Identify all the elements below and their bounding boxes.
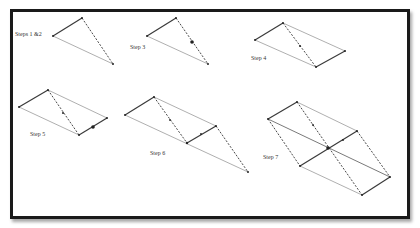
step-4-label: Step 4 xyxy=(251,55,266,61)
step-1-2-label: Steps 1 &2 xyxy=(15,31,42,37)
step-7-label: Step 7 xyxy=(263,154,278,160)
step-1-2-figure xyxy=(52,17,114,65)
construction-steps-diagram xyxy=(0,0,420,228)
step-7-figure xyxy=(267,101,391,196)
step-6-figure xyxy=(124,96,249,173)
step-5-figure xyxy=(18,89,108,136)
step-5-label: Step 5 xyxy=(30,131,45,137)
step-6-label: Step 6 xyxy=(150,150,165,156)
step-3-figure xyxy=(146,17,209,65)
step-4-figure xyxy=(254,22,346,68)
step-3-label: Step 3 xyxy=(130,44,145,50)
